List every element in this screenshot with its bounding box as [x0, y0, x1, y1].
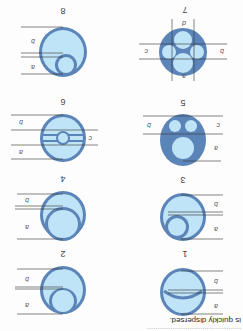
svg-text:c: c: [88, 135, 92, 142]
svg-text:b: b: [214, 278, 218, 285]
figure-diagrams: 1 b a 2 b a 3: [0, 0, 243, 331]
svg-text:b: b: [31, 38, 35, 45]
rotated-document-page: ........................................…: [0, 0, 243, 331]
svg-text:a: a: [182, 73, 186, 80]
svg-text:b: b: [214, 201, 218, 208]
svg-text:b: b: [220, 48, 224, 55]
figure-1-label: 1: [182, 249, 187, 259]
svg-text:a: a: [25, 224, 29, 231]
figure-5-label: 5: [180, 98, 185, 108]
svg-text:a: a: [25, 302, 29, 309]
svg-text:b: b: [19, 119, 23, 126]
svg-text:c: c: [144, 48, 148, 55]
figure-3: 3 b a: [160, 175, 223, 241]
svg-text:b: b: [25, 276, 29, 283]
figure-4: 4 b a: [15, 174, 86, 241]
svg-text:c: c: [216, 122, 220, 129]
figure-2: 2 b a: [15, 249, 86, 314]
svg-text:a: a: [214, 145, 218, 152]
figure-2-label: 2: [60, 249, 65, 259]
figure-8-label: 8: [60, 6, 65, 16]
figure-1: 1 b a: [160, 249, 223, 316]
figure-6-label: 6: [60, 97, 65, 107]
figure-8: 8 b a: [21, 6, 87, 77]
figure-6: 6 b c a: [11, 97, 98, 162]
svg-text:b: b: [147, 122, 151, 129]
svg-text:b: b: [25, 197, 29, 204]
svg-text:a: a: [31, 64, 35, 71]
figure-7-label: 7: [182, 5, 187, 15]
svg-text:d: d: [181, 20, 186, 27]
figure-5: 5 b c a: [143, 98, 223, 166]
figure-7: 7 b c a d: [139, 5, 227, 81]
svg-text:a: a: [19, 149, 23, 156]
figure-3-label: 3: [180, 175, 185, 185]
svg-text:a: a: [214, 303, 218, 310]
svg-text:a: a: [214, 226, 218, 233]
figure-4-label: 4: [60, 174, 65, 184]
